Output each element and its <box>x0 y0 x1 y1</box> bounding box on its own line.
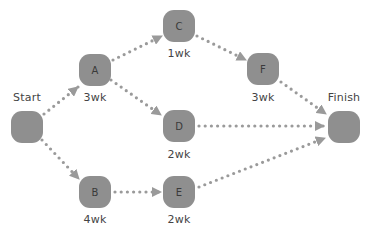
edge-start-a <box>44 87 78 114</box>
task-node-b: B <box>79 176 111 208</box>
duration-label-f: 3wk <box>252 91 275 104</box>
duration-label-a: 3wk <box>84 91 107 104</box>
finish-label: Finish <box>328 91 361 104</box>
edge-a-c <box>113 36 162 60</box>
task-node-f: F <box>247 53 279 85</box>
task-node-e: E <box>163 176 195 208</box>
task-letter: A <box>92 65 99 76</box>
duration-label-c: 1wk <box>168 47 191 60</box>
start-label: Start <box>13 91 41 104</box>
task-letter: D <box>175 121 183 132</box>
task-node-c: C <box>163 10 195 42</box>
task-letter: F <box>260 64 266 75</box>
edge-start-b <box>42 140 79 179</box>
duration-label-b: 4wk <box>84 213 107 226</box>
edge-e-finish <box>199 138 325 187</box>
task-letter: E <box>176 187 182 198</box>
duration-label-d: 2wk <box>168 148 191 161</box>
edge-a-d <box>111 80 161 115</box>
edge-c-f <box>197 36 246 60</box>
duration-label-e: 2wk <box>168 213 191 226</box>
start-node <box>11 111 43 143</box>
finish-node <box>328 111 360 143</box>
task-node-a: A <box>79 54 111 86</box>
task-node-d: D <box>163 110 195 142</box>
task-letter: B <box>92 187 99 198</box>
task-letter: C <box>176 21 183 32</box>
edge-f-finish <box>281 82 326 114</box>
network-diagram: Start A 3wk B 4wk C 1wk D 2wk E 2wk F 3w… <box>0 0 372 233</box>
